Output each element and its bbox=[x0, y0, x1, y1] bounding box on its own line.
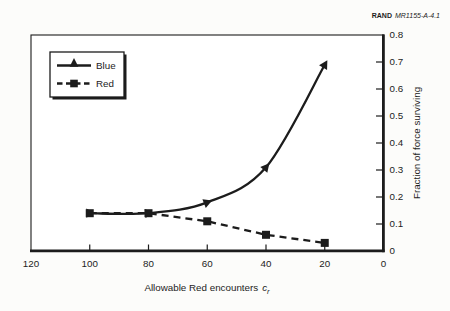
y-tick-label: 0.3 bbox=[390, 164, 404, 175]
y-tick-label: 0.4 bbox=[390, 137, 404, 148]
y-tick-label: 0 bbox=[390, 245, 396, 256]
red-square-marker bbox=[321, 239, 329, 247]
figure-id: RANDMR1155-A-4.1 bbox=[372, 12, 440, 19]
x-axis-title: Allowable Red encounterscr bbox=[144, 282, 270, 296]
legend-label-red: Red bbox=[96, 78, 114, 89]
x-tick-label: 40 bbox=[261, 258, 272, 269]
y-tick-label: 0.2 bbox=[390, 191, 404, 202]
red-square-marker bbox=[203, 217, 211, 225]
figure-id-brand: RAND bbox=[372, 12, 392, 19]
y-tick-label: 0.1 bbox=[390, 218, 404, 229]
x-tick-label: 100 bbox=[82, 258, 99, 269]
rand-figure: RANDMR1155-A-4.1 120100806040200 00.10.2… bbox=[0, 0, 450, 311]
legend-label-blue: Blue bbox=[96, 60, 116, 71]
x-tick-label: 80 bbox=[143, 258, 154, 269]
figure-id-doc: MR1155-A-4.1 bbox=[395, 12, 440, 19]
y-tick-label: 0.5 bbox=[390, 110, 404, 121]
x-axis-title-main: Allowable Red encounters bbox=[144, 282, 258, 293]
y-tick-label: 0.6 bbox=[390, 83, 404, 94]
x-tick-label: 60 bbox=[202, 258, 213, 269]
chart-svg: RANDMR1155-A-4.1 120100806040200 00.10.2… bbox=[0, 0, 450, 311]
x-tick-label: 20 bbox=[319, 258, 330, 269]
red-square-marker bbox=[86, 209, 94, 217]
legend: Blue Red bbox=[50, 52, 127, 100]
square-marker-icon bbox=[70, 80, 78, 88]
legend-frame bbox=[50, 52, 124, 97]
x-tick-label: 120 bbox=[23, 258, 40, 269]
y-tick-label: 0.7 bbox=[390, 56, 404, 67]
x-axis-title-sub: r bbox=[267, 287, 270, 296]
red-square-marker bbox=[262, 231, 270, 239]
y-axis-title: Fraction of force surviving bbox=[411, 87, 422, 199]
x-tick-label: 0 bbox=[381, 258, 387, 269]
y-tick-label: 0.8 bbox=[390, 29, 404, 40]
red-square-marker bbox=[145, 209, 153, 217]
